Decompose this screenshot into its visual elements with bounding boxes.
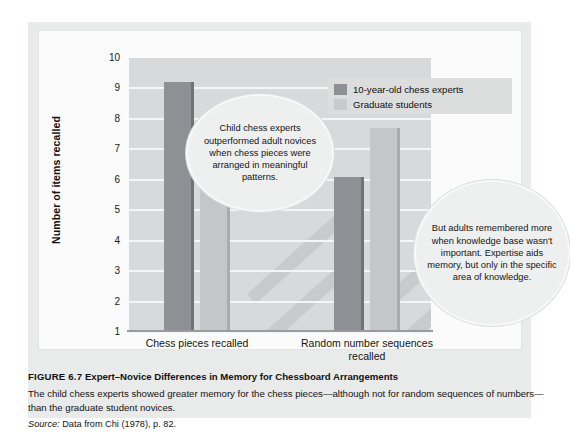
figure-number: FIGURE 6.7 [28, 371, 82, 382]
legend-swatch-icon [334, 99, 347, 110]
caption-source: Source: Data from Chi (1978), p. 82. [28, 419, 548, 429]
callout-text: Child chess experts outperformed adult n… [188, 122, 332, 183]
bar-graduates [200, 186, 230, 332]
source-text: Data from Chi (1978), p. 82. [62, 419, 176, 429]
y-tick-label: 2 [94, 297, 120, 307]
y-tick-label: 3 [94, 266, 120, 276]
legend-label: Graduate students [353, 99, 432, 110]
x-axis-line [127, 330, 433, 332]
bar-experts [164, 82, 194, 332]
y-tick-label: 4 [94, 236, 120, 246]
y-tick-label: 8 [94, 114, 120, 124]
caption-body: The child chess experts showed greater m… [28, 387, 548, 414]
legend-label: 10-year-old chess experts [353, 84, 463, 95]
bar-graduates [370, 128, 400, 332]
legend-item-graduates: Graduate students [334, 97, 506, 111]
callout-bubble-right: But adults remembered more when knowledg… [414, 180, 570, 326]
legend-swatch-icon [334, 84, 347, 95]
callout-bubble-left: Child chess experts outperformed adult n… [186, 94, 334, 212]
y-tick-label: 9 [94, 83, 120, 93]
x-axis-label: Random number sequences recalled [292, 337, 442, 363]
y-tick-label: 10 [94, 53, 120, 63]
callout-text: But adults remembered more when knowledg… [416, 222, 568, 283]
x-axis-label: Chess pieces recalled [122, 337, 272, 350]
y-tick-label: 5 [94, 205, 120, 215]
figure-caption: FIGURE 6.7 Expert–Novice Differences in … [28, 371, 548, 429]
legend-item-experts: 10-year-old chess experts [334, 82, 506, 96]
y-tick-label: 6 [94, 175, 120, 185]
y-tick-label: 1 [94, 327, 120, 337]
figure-title: Expert–Novice Differences in Memory for … [85, 371, 398, 382]
y-axis-title: Number of items recalled [50, 90, 62, 270]
chart: Number of items recalled 12345678910 Che… [28, 22, 531, 418]
y-tick-label: 7 [94, 144, 120, 154]
legend: 10-year-old chess experts Graduate stude… [328, 78, 512, 114]
source-label: Source: [28, 419, 60, 429]
bar-experts [334, 177, 364, 332]
caption-title-line: FIGURE 6.7 Expert–Novice Differences in … [28, 371, 548, 382]
